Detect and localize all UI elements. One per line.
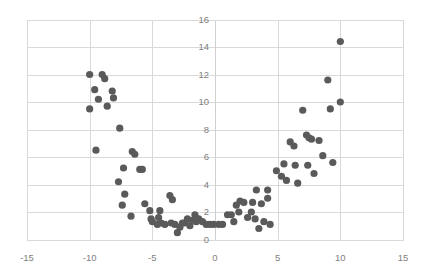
x-tick-label: 15 (398, 252, 409, 263)
data-point (258, 200, 265, 207)
x-tick-label: 10 (335, 252, 346, 263)
data-point (228, 211, 235, 218)
data-point (252, 215, 259, 222)
data-point (299, 107, 306, 114)
data-point (121, 191, 128, 198)
scatter-chart: 0246810121416 -15-10-5051015 (0, 0, 430, 274)
plot-canvas: 0246810121416 -15-10-5051015 (0, 0, 430, 274)
data-point (109, 87, 116, 94)
y-tick-label: 12 (198, 69, 209, 80)
data-point (304, 162, 311, 169)
data-point (249, 199, 256, 206)
data-point (92, 147, 99, 154)
data-point (146, 207, 153, 214)
data-point (120, 164, 127, 171)
data-point (267, 221, 274, 228)
data-point (116, 125, 123, 132)
data-point (280, 160, 287, 167)
y-tick-label: 6 (204, 151, 209, 162)
data-point (308, 136, 315, 143)
data-point (260, 218, 267, 225)
data-point (264, 195, 271, 202)
x-tick-label: 5 (275, 252, 280, 263)
y-axis-tick-labels: 0246810121416 (198, 14, 209, 245)
data-point (264, 186, 271, 193)
data-point (294, 180, 301, 187)
y-tick-label: 10 (198, 96, 209, 107)
data-point (131, 151, 138, 158)
data-point (86, 105, 93, 112)
x-tick-label: -10 (83, 252, 97, 263)
data-point (248, 208, 255, 215)
data-point (337, 98, 344, 105)
data-point (310, 170, 317, 177)
data-point (161, 221, 168, 228)
data-point (329, 159, 336, 166)
data-point (101, 75, 108, 82)
data-point (240, 199, 247, 206)
data-point (139, 166, 146, 173)
data-point (91, 86, 98, 93)
data-point (141, 200, 148, 207)
data-point (255, 225, 262, 232)
data-point (283, 177, 290, 184)
data-point (273, 167, 280, 174)
x-axis-tick-labels: -15-10-5051015 (20, 252, 408, 263)
data-point (95, 96, 102, 103)
y-tick-label: 2 (204, 206, 209, 217)
y-tick-label: 16 (198, 14, 209, 25)
data-point (110, 94, 117, 101)
data-point (324, 76, 331, 83)
data-point (230, 218, 237, 225)
data-point (156, 207, 163, 214)
data-point (104, 103, 111, 110)
y-tick-label: 8 (204, 124, 209, 135)
x-tick-label: 0 (212, 252, 217, 263)
data-point (119, 202, 126, 209)
data-point (327, 105, 334, 112)
y-tick-label: 0 (204, 234, 209, 245)
data-point (169, 196, 176, 203)
x-tick-label: -5 (148, 252, 156, 263)
data-point (219, 221, 226, 228)
data-point (315, 137, 322, 144)
y-tick-label: 14 (198, 41, 209, 52)
data-point (235, 208, 242, 215)
data-point (337, 38, 344, 45)
data-point (319, 152, 326, 159)
data-point (127, 213, 134, 220)
data-point (86, 71, 93, 78)
data-point (253, 186, 260, 193)
y-tick-label: 4 (204, 179, 209, 190)
data-point (115, 178, 122, 185)
x-tick-label: -15 (20, 252, 34, 263)
data-point (290, 142, 297, 149)
grid-lines (27, 20, 404, 241)
data-point (292, 162, 299, 169)
